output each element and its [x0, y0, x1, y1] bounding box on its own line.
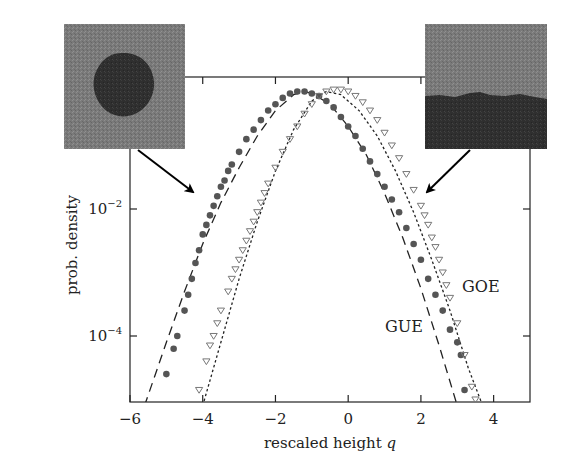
gue-data-point	[374, 171, 381, 178]
goe-data-point	[217, 308, 224, 314]
gue-data-point	[189, 276, 196, 283]
y-tick-label: 10−2	[88, 198, 122, 218]
gue-data-point	[258, 117, 265, 124]
gue-data-point	[218, 183, 225, 190]
goe-data-point	[352, 93, 359, 99]
goe-data-point	[417, 203, 424, 209]
gue-data-point	[345, 123, 352, 130]
flat-cluster	[425, 92, 547, 149]
gue-data-point	[265, 107, 272, 114]
gue-data-point	[359, 145, 366, 152]
goe-data-point	[243, 238, 250, 244]
goe-data-point	[359, 100, 366, 106]
gue-theory-curve	[145, 92, 458, 406]
y-axis-label: prob. density	[63, 194, 81, 295]
gue-label: GUE	[385, 317, 423, 336]
goe-data-point	[388, 143, 395, 149]
goe-data-point	[374, 118, 381, 124]
goe-data-point	[225, 289, 232, 295]
goe-data-point	[345, 89, 352, 95]
goe-data-point	[410, 187, 417, 193]
gue-data-point	[210, 203, 217, 210]
gue-data-point	[309, 90, 316, 97]
goe-data-point	[439, 270, 446, 276]
goe-data-point	[254, 210, 261, 216]
x-tick-label: 2	[416, 410, 426, 428]
y-tick-label: 10−4	[88, 325, 122, 345]
goe-data-point	[272, 165, 279, 171]
goe-data-point	[337, 87, 344, 93]
x-tick-label: −2	[264, 410, 286, 428]
gue-data-point	[225, 168, 232, 175]
gue-data-point	[192, 260, 199, 267]
gue-data-point	[396, 209, 403, 216]
goe-data-point	[235, 257, 242, 263]
gue-data-point	[367, 158, 374, 165]
inset-flat-interface	[425, 24, 547, 149]
goe-data-point	[381, 130, 388, 136]
goe-data-point	[228, 276, 235, 282]
gue-data-point	[174, 333, 181, 340]
x-axis-label: rescaled height q	[264, 434, 396, 452]
goe-label: GOE	[462, 277, 500, 296]
x-tick-label: 0	[343, 410, 353, 428]
goe-data-point	[446, 295, 453, 301]
goe-data-point	[250, 219, 257, 225]
gue-data-point	[381, 183, 388, 190]
x-tick-label: −6	[119, 410, 141, 428]
goe-data-point	[239, 248, 246, 254]
gue-data-point	[279, 95, 286, 102]
gue-data-point	[389, 196, 396, 203]
gue-data-point	[170, 345, 177, 352]
gue-data-point	[432, 291, 439, 298]
goe-data-point	[435, 257, 442, 263]
arrow-to-gue	[138, 150, 193, 192]
gue-data-point	[301, 88, 308, 95]
x-tick-label: 4	[489, 410, 499, 428]
gue-data-point	[207, 212, 214, 219]
gue-data-point	[425, 276, 432, 283]
goe-data-point	[214, 321, 221, 327]
gue-data-point	[185, 291, 192, 298]
goe-data-point	[246, 229, 253, 235]
gue-data-point	[323, 98, 330, 105]
goe-data-point	[203, 359, 210, 365]
gue-data-point	[330, 104, 337, 111]
gue-data-point	[181, 307, 188, 314]
goe-data-point	[195, 387, 202, 393]
gue-data-point	[352, 133, 359, 140]
gue-data-point	[196, 247, 203, 254]
goe-data-point	[232, 267, 239, 273]
x-tick-label: −4	[192, 410, 214, 428]
gue-data-point	[243, 136, 250, 143]
goe-data-point	[403, 172, 410, 178]
goe-data-point	[395, 156, 402, 162]
gue-data-point	[203, 222, 210, 229]
gue-data-point	[439, 307, 446, 314]
goe-data-point	[443, 283, 450, 289]
gue-data-point	[229, 161, 236, 168]
gue-data-point	[294, 88, 301, 95]
gue-data-point	[214, 193, 221, 200]
goe-data-point	[432, 245, 439, 251]
gue-data-point	[454, 339, 461, 346]
inset-circular-interface	[64, 24, 185, 149]
goe-data-point	[206, 343, 213, 349]
goe-data-point	[428, 235, 435, 241]
gue-data-point	[338, 114, 345, 121]
gue-data-point	[447, 326, 454, 333]
gue-data-point	[272, 101, 279, 108]
gue-data-point	[410, 241, 417, 248]
goe-data-point	[210, 333, 217, 339]
gue-data-point	[236, 149, 243, 156]
goe-data-point	[468, 384, 475, 390]
goe-data-point	[279, 149, 286, 155]
gue-data-point	[461, 387, 468, 394]
goe-data-point	[421, 213, 428, 219]
gue-data-point	[287, 90, 294, 97]
gue-data-point	[403, 225, 410, 232]
gue-data-point	[199, 231, 206, 238]
chart: −6−4−202410010−210−4 rescaled height q p…	[0, 0, 566, 475]
gue-data-point	[163, 371, 170, 378]
gue-data-point	[250, 126, 257, 133]
